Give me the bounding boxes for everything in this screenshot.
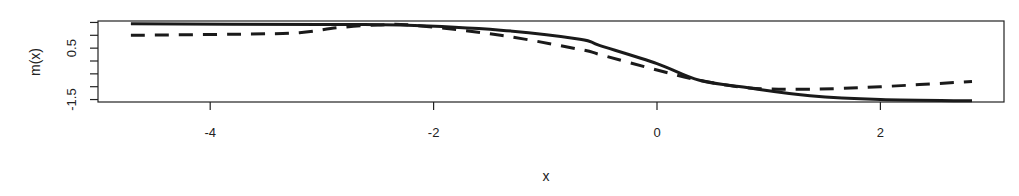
x-tick-label: -4 [204, 125, 216, 140]
x-tick-label: -2 [428, 125, 440, 140]
x-axis-title: x [543, 168, 550, 184]
y-tick-label: -1.5 [64, 88, 79, 110]
x-tick-label: 0 [653, 125, 660, 140]
series-layer [131, 24, 972, 101]
line-chart: 0.5-1.5 -4-202 x m(x) [0, 0, 1019, 196]
x-axis: -4-202 [204, 102, 884, 140]
y-tick-label: 0.5 [64, 39, 79, 57]
y-axis-title: m(x) [27, 48, 43, 76]
y-axis: 0.5-1.5 [64, 22, 98, 110]
x-tick-label: 2 [877, 125, 884, 140]
